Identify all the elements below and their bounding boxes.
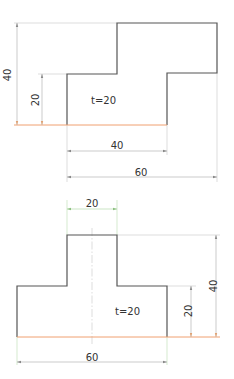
dim-label-width-40: 40 <box>111 140 124 151</box>
arrow-icon <box>17 361 21 363</box>
thickness-label-top: t=20 <box>91 95 116 106</box>
arrow-icon <box>215 235 217 239</box>
figure-bottom: 20 40 20 t=20 60 <box>17 198 220 365</box>
arrow-icon <box>67 208 71 210</box>
dim-label-width-20: 20 <box>86 198 99 209</box>
figure-top: 40 20 t=20 40 60 <box>2 23 217 182</box>
arrow-icon <box>41 74 43 78</box>
dim-label-height-40: 40 <box>208 280 219 293</box>
arrow-icon <box>190 333 192 337</box>
arrow-icon <box>213 176 217 178</box>
thickness-label-bottom: t=20 <box>115 306 140 317</box>
profile-outline-top <box>67 23 217 125</box>
dim-label-height-20: 20 <box>183 305 194 318</box>
arrow-icon <box>16 121 18 125</box>
drawing-canvas: 40 20 t=20 40 60 <box>0 0 234 379</box>
arrow-icon <box>113 208 117 210</box>
dim-label-width-60: 60 <box>86 352 99 363</box>
arrow-icon <box>67 176 71 178</box>
dim-label-height-20: 20 <box>30 94 41 107</box>
arrow-icon <box>163 150 167 152</box>
dim-label-height-40: 40 <box>2 69 13 82</box>
dim-label-width-60: 60 <box>135 167 148 178</box>
arrow-icon <box>41 121 43 125</box>
arrow-icon <box>16 23 18 27</box>
arrow-icon <box>215 333 217 337</box>
arrow-icon <box>190 286 192 290</box>
arrow-icon <box>163 361 167 363</box>
arrow-icon <box>67 150 71 152</box>
